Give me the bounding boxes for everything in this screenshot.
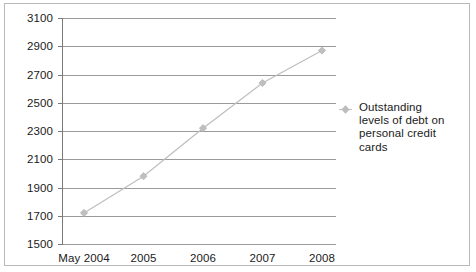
chart-frame: 310029002700250023002100190017001500 May… [4,3,470,266]
x-axis-label: 2006 [190,252,216,264]
plot-area: 310029002700250023002100190017001500 May… [62,18,336,244]
y-axis-label: 2700 [27,69,53,81]
y-axis-label: 2300 [27,125,53,137]
data-point-marker [80,209,87,216]
x-axis-label: 2005 [131,252,157,264]
y-axis-label: 1500 [27,238,53,250]
x-axis-label: May 2004 [58,252,109,264]
y-axis-label: 3100 [27,12,53,24]
x-axis-label: 2007 [250,252,276,264]
y-axis-label: 1900 [27,182,53,194]
diamond-marker-icon [339,103,352,116]
legend-entry-label: Outstanding levels of debt on personal c… [359,101,445,154]
chart-legend: Outstanding levels of debt on personal c… [339,101,445,154]
x-axis-label: 2008 [309,252,335,264]
data-series-svg [62,18,336,245]
y-axis-label: 2900 [27,40,53,52]
y-axis-label: 1700 [27,210,53,222]
y-axis-label: 2100 [27,153,53,165]
chart-container: 310029002700250023002100190017001500 May… [0,0,476,272]
data-point-marker [318,47,325,54]
y-axis-label: 2500 [27,97,53,109]
